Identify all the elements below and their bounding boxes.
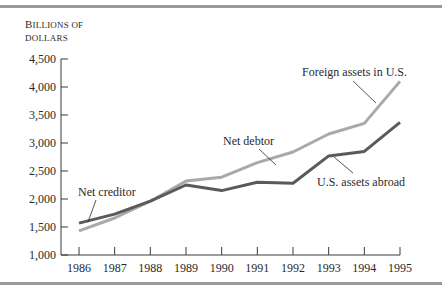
- x-tick-label: 1988: [138, 261, 162, 275]
- x-tick-label: 1992: [281, 261, 305, 275]
- y-tick-label: 1,000: [29, 248, 56, 262]
- axes: 1,0001,5002,0002,5003,0003,5004,0004,500…: [29, 52, 412, 275]
- annotations: Net creditor Net debtor Foreign assets i…: [78, 65, 407, 222]
- foreign-assets-label: Foreign assets in U.S.: [302, 65, 407, 79]
- x-tick-label: 1994: [352, 261, 376, 275]
- x-tick-label: 1989: [174, 261, 198, 275]
- y-tick-label: 2,500: [29, 164, 56, 178]
- foreign-assets-leader: [353, 81, 376, 103]
- us-assets-leader: [334, 157, 353, 173]
- x-tick-label: 1987: [103, 261, 127, 275]
- x-tick-label: 1986: [67, 261, 91, 275]
- x-tick-label: 1995: [388, 261, 412, 275]
- y-tick-label: 3,000: [29, 136, 56, 150]
- y-tick-label: 3,500: [29, 108, 56, 122]
- y-tick-label: 2,000: [29, 192, 56, 206]
- x-tick-label: 1990: [210, 261, 234, 275]
- y-tick-label: 4,500: [29, 52, 56, 66]
- x-tick-label: 1993: [317, 261, 341, 275]
- x-tick-label: 1991: [245, 261, 269, 275]
- us-assets-label: U.S. assets abroad: [317, 175, 405, 189]
- y-tick-label: 4,000: [29, 80, 56, 94]
- line-chart: 1,0001,5002,0002,5003,0003,5004,0004,500…: [0, 0, 442, 285]
- net-creditor-label: Net creditor: [78, 185, 136, 199]
- net-debtor-label: Net debtor: [223, 134, 274, 148]
- series-lines: [79, 81, 400, 231]
- y-tick-label: 1,500: [29, 220, 56, 234]
